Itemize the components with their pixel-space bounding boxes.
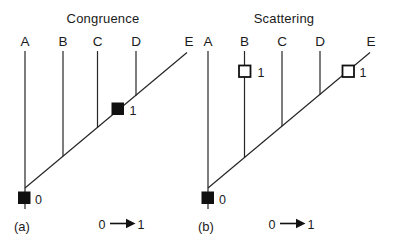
panel-b-change-marker-b-icon — [239, 66, 251, 78]
panel-b-change-marker-e-icon — [343, 66, 355, 78]
panel-b-legend-to: 1 — [308, 218, 315, 232]
panel-a-label: (a) — [14, 219, 30, 234]
panel-a-change-label: 1 — [130, 104, 137, 118]
panel-b-taxon-c-label: C — [277, 34, 287, 49]
panel-a-title: Congruence — [67, 11, 140, 26]
panel-a-legend-to: 1 — [138, 218, 145, 232]
cladogram-figure: Congruence A B C D E 1 0 (a) 0 — [0, 0, 393, 241]
panel-a-taxon-a-label: A — [20, 34, 29, 49]
panel-a-change-marker-icon — [112, 103, 124, 115]
panel-a-arrowhead-icon — [126, 219, 136, 228]
panel-a-root-marker-icon — [19, 192, 31, 204]
panel-a-taxon-d-label: D — [131, 34, 141, 49]
panel-b-taxon-d-label: D — [315, 34, 325, 49]
panel-b-taxon-e-label: E — [366, 34, 375, 49]
panel-b-legend: 0 1 — [269, 218, 315, 232]
panel-scattering: Scattering A B C D E 1 1 0 (b) — [198, 11, 376, 234]
panel-b-change-label-e: 1 — [360, 66, 367, 80]
panel-b-label: (b) — [198, 219, 214, 234]
cladogram-svg: Congruence A B C D E 1 0 (a) 0 — [0, 0, 393, 241]
panel-a-root-state-label: 0 — [35, 193, 42, 207]
panel-b-change-label-b: 1 — [258, 66, 265, 80]
panel-b-legend-from: 0 — [269, 218, 276, 232]
panel-a-taxon-b-label: B — [58, 34, 67, 49]
panel-b-taxon-b-label: B — [240, 34, 249, 49]
panel-a-legend-from: 0 — [99, 218, 106, 232]
panel-b-root-marker-icon — [202, 192, 214, 204]
panel-b-title: Scattering — [254, 11, 315, 26]
panel-b-taxon-a-label: A — [203, 34, 212, 49]
panel-a-backbone — [25, 53, 187, 189]
panel-b-root-state-label: 0 — [219, 193, 226, 207]
panel-a-legend: 0 1 — [99, 218, 145, 232]
panel-b-arrowhead-icon — [296, 219, 306, 228]
panel-a-taxon-c-label: C — [93, 34, 103, 49]
panel-congruence: Congruence A B C D E 1 0 (a) 0 — [14, 11, 194, 234]
panel-a-taxon-e-label: E — [184, 34, 193, 49]
